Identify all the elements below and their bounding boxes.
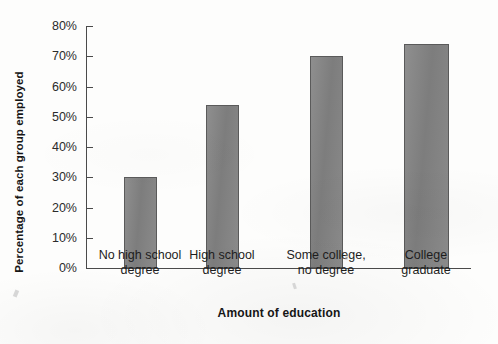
y-axis-tick-label: 40% — [52, 140, 77, 154]
y-axis-tick-label: 50% — [52, 110, 77, 124]
bar — [310, 56, 343, 268]
y-axis-tick-mark — [86, 87, 93, 88]
y-axis-title: Percentage of each group employed — [0, 0, 56, 344]
y-axis-tick-mark — [86, 238, 93, 239]
bar-chart: Percentage of each group employed 0%10%2… — [0, 0, 498, 344]
y-axis-tick-label: 70% — [52, 49, 77, 63]
y-axis-tick-label: 10% — [52, 231, 77, 245]
y-axis-tick-mark — [86, 177, 93, 178]
y-axis-tick-mark — [86, 117, 93, 118]
y-axis-tick-mark — [86, 26, 93, 27]
y-axis-title-text: Percentage of each group employed — [13, 71, 43, 272]
plot-area: 0%10%20%30%40%50%60%70%80% — [86, 26, 471, 268]
y-axis-tick-label: 20% — [52, 201, 77, 215]
x-axis-category-label: High school degree — [162, 248, 282, 278]
scan-speck — [292, 283, 297, 290]
x-axis-title: Amount of education — [86, 306, 472, 320]
bar — [404, 44, 449, 268]
y-axis-tick-label: 80% — [52, 19, 77, 33]
x-axis-category-label: College graduate — [366, 248, 486, 278]
bar — [206, 105, 239, 268]
y-axis-tick-label: 60% — [52, 80, 77, 94]
y-axis-tick-mark — [86, 147, 93, 148]
y-axis-tick-mark — [86, 208, 93, 209]
y-axis-tick-label: 0% — [59, 261, 77, 275]
y-axis-tick-mark — [86, 56, 93, 57]
y-axis-tick-label: 30% — [52, 170, 77, 184]
